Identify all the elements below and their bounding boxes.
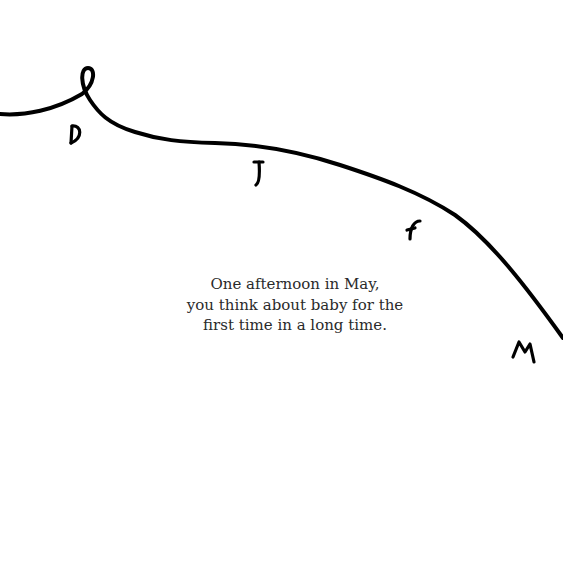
caption-line: One afternoon in May, [150, 274, 440, 295]
label-f-glyph [407, 221, 420, 239]
label-d-glyph [71, 126, 80, 143]
caption-line: you think about baby for the [150, 295, 440, 316]
story-caption: One afternoon in May, you think about ba… [150, 274, 440, 336]
illustration-page: One afternoon in May, you think about ba… [0, 0, 563, 578]
label-j-glyph [254, 162, 263, 185]
caption-line: first time in a long time. [150, 315, 440, 336]
label-m-glyph [513, 342, 534, 362]
